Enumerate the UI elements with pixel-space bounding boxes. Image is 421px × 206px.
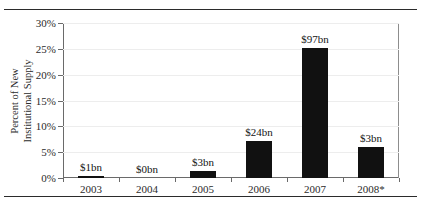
bar [190,171,216,178]
y-axis-tick-label: 0% [41,172,56,184]
y-axis-tick-label: 20% [36,69,56,81]
gridline [63,23,399,24]
y-axis-tick [58,152,63,153]
x-axis-category-label: 2006 [248,183,270,195]
y-axis-tick-label: 15% [36,95,56,107]
x-axis-category-label: 2003 [80,183,102,195]
chart-page: Percent of New Institutional Supply 0%5%… [0,0,421,206]
y-axis-tick-label: 30% [36,17,56,29]
y-axis-title: Percent of New Institutional Supply [6,23,36,178]
y-axis-tick [58,75,63,76]
bar [302,48,328,178]
top-rule [4,9,417,10]
bar-value-label: $97bn [301,33,329,45]
gridline [63,152,399,153]
x-axis-category-label: 2007 [304,183,326,195]
bar [246,141,272,178]
gridline [63,75,399,76]
x-axis-separator [343,178,344,182]
y-axis-tick [58,49,63,50]
plot-area: 0%5%10%15%20%25%30%$1bn$0bn$3bn$24bn$97b… [63,23,399,178]
x-axis-separator [231,178,232,182]
bar-value-label: $3bn [192,156,214,168]
y-axis-tick [58,126,63,127]
x-axis-category-label: 2005 [192,183,214,195]
x-axis-separator [287,178,288,182]
y-axis-tick [58,23,63,24]
bar-value-label: $3bn [360,132,382,144]
y-axis-title-line-2: Institutional Supply [21,59,34,142]
y-axis-tick-label: 10% [36,120,56,132]
x-axis-separator [175,178,176,182]
bar-chart: Percent of New Institutional Supply 0%5%… [0,12,421,194]
x-axis-category-label: 2004 [136,183,158,195]
y-axis-tick-label: 25% [36,43,56,55]
bar [78,176,104,178]
x-axis-category-label: 2008* [357,183,385,195]
gridline [63,126,399,127]
cutoff-caption-text [6,0,256,3]
bottom-rule [4,196,417,197]
gridline [63,101,399,102]
bar-value-label: $24bn [245,126,273,138]
x-axis-separator [399,178,400,182]
x-axis-separator [63,178,64,182]
y-axis-tick [58,101,63,102]
bar-value-label: $1bn [80,161,102,173]
x-axis-separator [119,178,120,182]
y-axis-tick-label: 5% [41,146,56,158]
gridline [63,49,399,50]
y-axis-title-line-1: Percent of New [9,59,22,142]
bar-value-label: $0bn [136,163,158,175]
bar [358,147,384,178]
